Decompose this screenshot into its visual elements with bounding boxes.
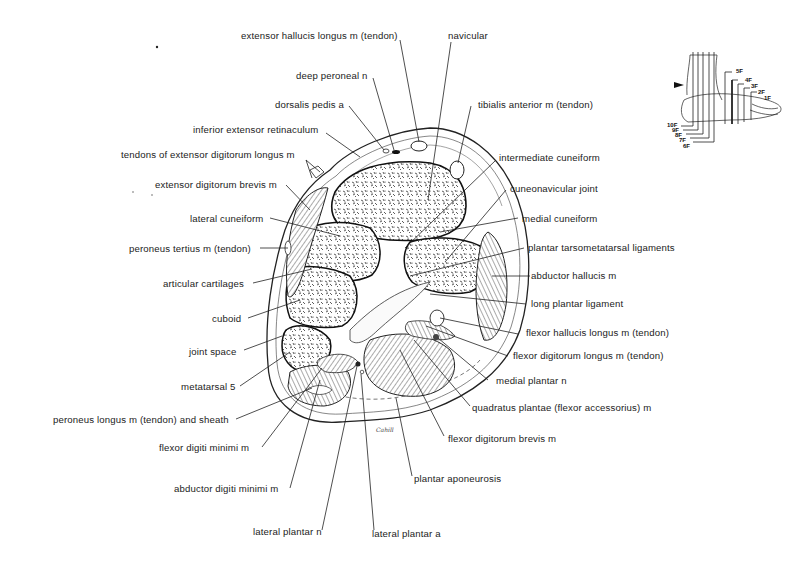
artist-signature: Cahill	[376, 426, 394, 433]
label-long-plantar-ligament: long plantar ligament	[531, 298, 623, 309]
flexor-digitorum-brevis-muscle	[364, 334, 455, 396]
flexor-digiti-minimi-muscle	[317, 354, 358, 372]
label-medial-plantar-n: medial plantar n	[496, 375, 567, 386]
label-navicular: navicular	[448, 30, 488, 41]
inset-level-3f: 3F	[751, 83, 758, 90]
label-medial-cuneiform: medial cuneiform	[522, 213, 597, 224]
label-abductor-digiti-minimi: abductor digiti minimi m	[174, 483, 278, 494]
medial-plantar-nerve	[433, 334, 439, 340]
label-flexor-digitorum-brevis: flexor digitorum brevis m	[448, 433, 556, 444]
tibialis-anterior-tendon	[450, 161, 464, 179]
inset-level-6f: 6F	[683, 143, 690, 150]
label-tibialis-anterior: tibialis anterior m (tendon)	[478, 99, 593, 110]
label-lateral-plantar-a: lateral plantar a	[372, 528, 441, 539]
label-cuboid: cuboid	[212, 313, 241, 324]
label-abductor-hallucis: abductor hallucis m	[531, 270, 617, 281]
label-extensor-hallucis-longus: extensor hallucis longus m (tendon)	[241, 30, 398, 41]
label-plantar-aponeurosis: plantar aponeurosis	[414, 473, 501, 484]
label-extensor-digitorum-brevis: extensor digitorum brevis m	[155, 179, 277, 190]
label-tendons-extensor-digitorum-longus: tendons of extensor digitorum longus m	[121, 149, 295, 160]
label-plantar-tarsometatarsal-ligaments: plantar tarsometatarsal ligaments	[528, 242, 675, 253]
cross-section-illustration	[0, 0, 810, 568]
abductor-hallucis-muscle	[476, 232, 507, 340]
label-peroneus-tertius: peroneus tertius m (tendon)	[129, 243, 251, 254]
label-articular-cartilages: articular cartilages	[163, 278, 244, 289]
lateral-plantar-nerve	[356, 362, 361, 367]
label-cuneonavicular-joint: cuneonavicular joint	[510, 183, 598, 194]
label-metatarsal-5: metatarsal 5	[181, 381, 236, 392]
inset-arrowhead-icon	[674, 82, 684, 88]
label-intermediate-cuneiform: intermediate cuneiform	[499, 152, 600, 163]
inset-level-5f: 5F	[736, 68, 743, 75]
label-lateral-cuneiform: lateral cuneiform	[190, 213, 263, 224]
label-flexor-hallucis-longus: flexor hallucis longus m (tendon)	[526, 327, 669, 338]
deep-peroneal-nerve	[392, 150, 400, 154]
inset-level-1f: 1F	[764, 95, 771, 102]
medial-cuneiform-bone	[404, 238, 486, 294]
label-joint-space: joint space	[189, 346, 237, 357]
label-deep-peroneal-n: deep peroneal n	[296, 70, 368, 81]
label-dorsalis-pedis-a: dorsalis pedis a	[275, 99, 344, 110]
label-quadratus-plantae: quadratus plantae (flexor accessorius) m	[472, 402, 651, 413]
label-flexor-digitorum-longus: flexor digitorum longus m (tendon)	[513, 350, 664, 361]
label-flexor-digiti-minimi: flexor digiti minimi m	[159, 442, 249, 453]
lateral-plantar-artery	[360, 370, 364, 374]
label-peroneus-longus: peroneus longus m (tendon) and sheath	[53, 414, 229, 425]
extensor-hallucis-longus-tendon	[411, 141, 427, 151]
figure-stage: extensor hallucis longus m (tendon) navi…	[0, 0, 810, 568]
label-lateral-plantar-n: lateral plantar n	[253, 526, 322, 537]
label-inferior-extensor-retinaculum: inferior extensor retinaculum	[193, 124, 318, 135]
